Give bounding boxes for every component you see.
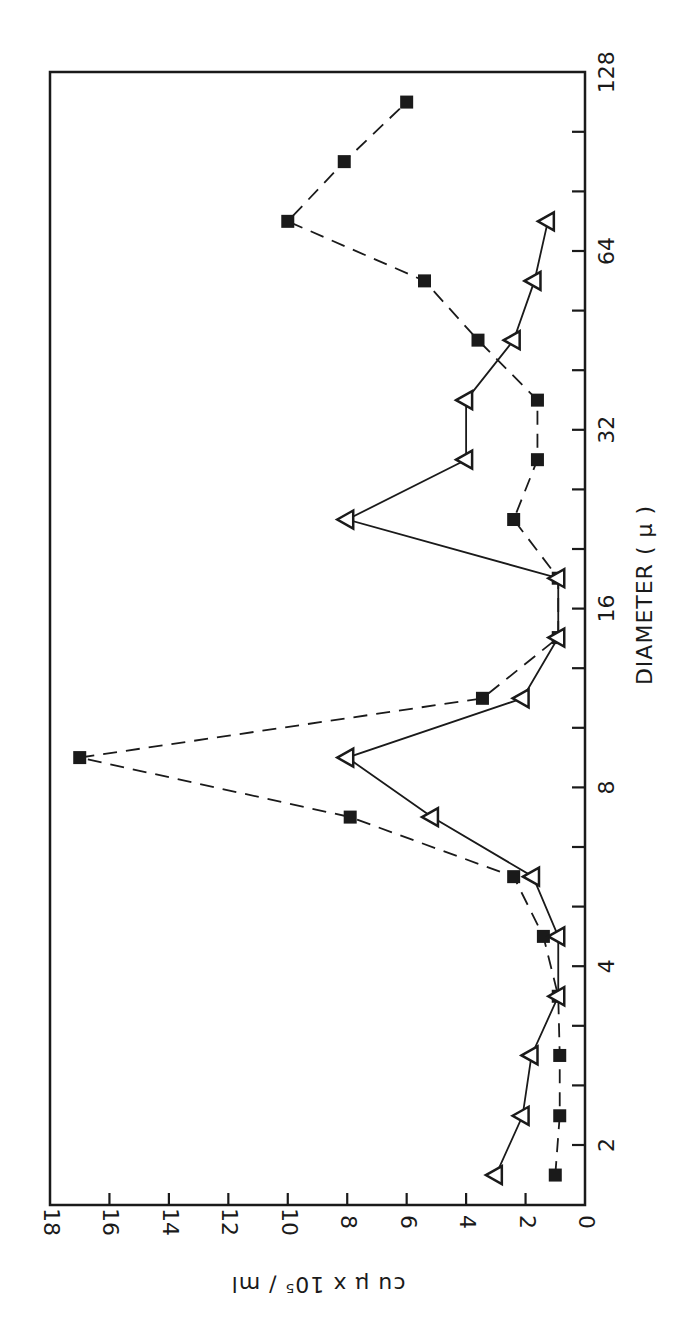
square-marker bbox=[553, 1049, 566, 1062]
triangle-marker bbox=[337, 511, 353, 529]
value-tick-label: 10 bbox=[277, 1208, 302, 1236]
triangle-marker bbox=[486, 1166, 502, 1184]
value-tick-label: 2 bbox=[515, 1215, 540, 1229]
value-tick-label: 6 bbox=[396, 1215, 421, 1229]
value-axis-title: cu µ x 10⁵ / ml bbox=[231, 1272, 406, 1297]
diameter-tick-label: 64 bbox=[594, 237, 619, 265]
square-marker bbox=[531, 453, 544, 466]
diameter-tick-label: 128 bbox=[594, 51, 619, 93]
triangle-marker bbox=[523, 868, 539, 886]
square-marker bbox=[281, 215, 294, 228]
triangle-marker bbox=[522, 1046, 538, 1064]
square-marker bbox=[338, 155, 351, 168]
plot-border bbox=[50, 72, 585, 1205]
diameter-tick-label: 32 bbox=[594, 416, 619, 444]
square-marker bbox=[418, 274, 431, 287]
square-marker bbox=[344, 811, 357, 824]
square-marker bbox=[472, 334, 485, 347]
triangle-marker bbox=[337, 749, 353, 767]
triangle-marker bbox=[456, 451, 472, 469]
diameter-tick-label: 2 bbox=[594, 1138, 619, 1152]
value-tick-label: 8 bbox=[336, 1215, 361, 1229]
value-tick-label: 4 bbox=[455, 1215, 480, 1229]
value-tick-label: 12 bbox=[217, 1208, 242, 1236]
value-tick-label: 14 bbox=[158, 1208, 183, 1236]
square-marker bbox=[553, 1109, 566, 1122]
square-marker bbox=[400, 96, 413, 109]
square-marker bbox=[507, 513, 520, 526]
value-tick-label: 18 bbox=[39, 1208, 64, 1236]
squares-series-line bbox=[80, 102, 560, 1175]
triangle-marker bbox=[456, 391, 472, 409]
square-marker bbox=[476, 692, 489, 705]
diameter-tick-label: 8 bbox=[594, 780, 619, 794]
diameter-axis-ticks: 248163264128 bbox=[572, 51, 619, 1152]
square-marker bbox=[531, 394, 544, 407]
square-marker bbox=[73, 751, 86, 764]
square-marker bbox=[507, 870, 520, 883]
square-marker bbox=[549, 1169, 562, 1182]
plot-frame bbox=[50, 72, 585, 1205]
series-lines bbox=[80, 102, 560, 1175]
series-markers bbox=[73, 96, 566, 1184]
value-tick-label: 0 bbox=[574, 1215, 599, 1229]
diameter-tick-label: 4 bbox=[594, 959, 619, 973]
axis-titles: cu µ x 10⁵ / mlDIAMETER ( µ ) bbox=[231, 505, 657, 1297]
diameter-axis-title: DIAMETER ( µ ) bbox=[632, 505, 657, 685]
value-tick-label: 16 bbox=[98, 1208, 123, 1236]
triangle-marker bbox=[504, 331, 520, 349]
value-axis-ticks: 024681012141618 bbox=[39, 1193, 599, 1236]
chart: 024681012141618 248163264128 cu µ x 10⁵ … bbox=[0, 0, 696, 1343]
diameter-tick-label: 16 bbox=[594, 595, 619, 623]
triangle-marker bbox=[513, 689, 529, 707]
